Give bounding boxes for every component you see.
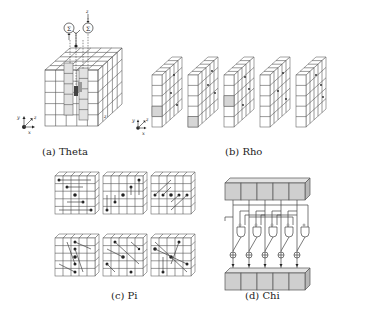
rho-slice-4 xyxy=(260,57,290,127)
sum-node-left: Σ xyxy=(64,23,74,33)
caption-rho: (b) Rho xyxy=(225,146,262,157)
rho-axes-icon: y z x xyxy=(131,116,149,136)
svg-text:z: z xyxy=(145,116,149,122)
pi-slice-6 xyxy=(151,234,195,276)
rho-slice-5 xyxy=(296,57,326,127)
pi-slice-3 xyxy=(151,172,195,214)
svg-text:z: z xyxy=(33,114,37,120)
chi-input-row xyxy=(225,178,310,200)
rho-slice-3 xyxy=(224,57,254,127)
theta-highlight-column-left xyxy=(64,63,73,115)
pi-slice-2 xyxy=(103,172,147,214)
pi-slice-5 xyxy=(103,234,147,276)
svg-text:x: x xyxy=(28,129,31,135)
pi-slice-1 xyxy=(55,172,99,214)
svg-text:x: x xyxy=(142,130,145,136)
caption-theta: (a) Theta xyxy=(42,146,88,157)
panel-pi: (c) Pi xyxy=(55,170,205,314)
chi-and-gates xyxy=(233,224,309,251)
rho-slices-diagram: y z x xyxy=(130,55,366,160)
rho-slice-2 xyxy=(188,57,218,127)
rho-slice-1 xyxy=(152,57,182,127)
theta-cube xyxy=(45,48,122,126)
pi-slice-4 xyxy=(55,234,99,276)
caption-pi: (c) Pi xyxy=(111,290,138,301)
theta-z-edge-label: z xyxy=(103,113,107,119)
sum-node-right: Σ xyxy=(83,23,93,33)
svg-text:y: y xyxy=(16,114,20,121)
panel-rho: y z x xyxy=(130,55,366,160)
chi-output-row xyxy=(225,268,310,290)
svg-text:Σ: Σ xyxy=(86,25,90,32)
theta-axes-icon: y z x xyxy=(16,114,37,135)
theta-highlight-column-right xyxy=(79,68,88,120)
panel-chi: (d) Chi xyxy=(220,175,330,314)
svg-text:z: z xyxy=(85,8,89,14)
caption-chi: (d) Chi xyxy=(245,290,280,301)
svg-text:Σ: Σ xyxy=(67,25,71,32)
svg-text:y: y xyxy=(131,117,135,124)
